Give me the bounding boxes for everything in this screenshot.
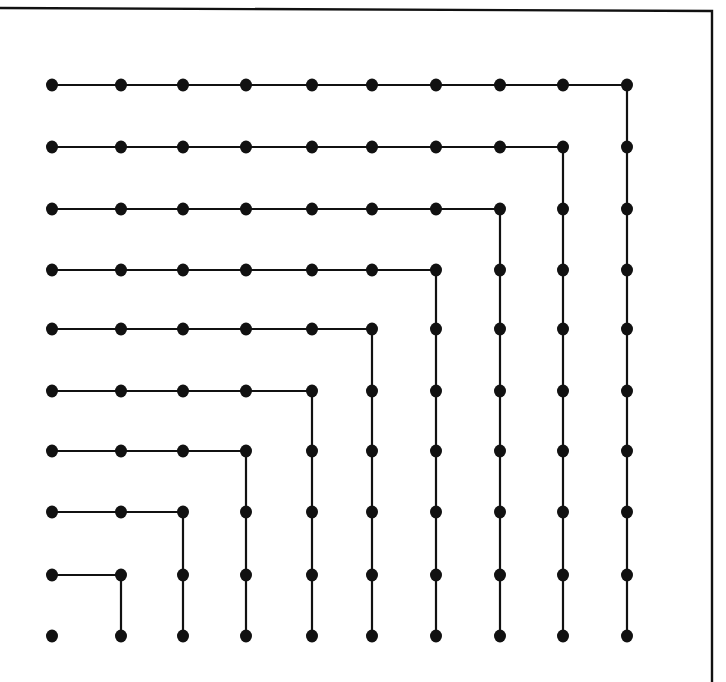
lattice-dot (430, 79, 442, 92)
lattice-dot (430, 141, 442, 154)
lattice-dot (306, 141, 318, 154)
lattice-dot (366, 630, 378, 643)
lattice-dot (494, 506, 506, 519)
lattice-dot (430, 385, 442, 398)
lattice-dot (494, 630, 506, 643)
lattice-dot (557, 323, 569, 336)
lattice-dot (177, 203, 189, 216)
lattice-dot (557, 569, 569, 582)
lattice-dot (240, 323, 252, 336)
lattice-dot (306, 445, 318, 458)
lattice-dot (240, 445, 252, 458)
lattice-dot (366, 569, 378, 582)
lattice-dot (430, 445, 442, 458)
gnomon-lines (52, 85, 627, 636)
lattice-dot (46, 445, 58, 458)
gnomon-path-4 (52, 451, 246, 636)
lattice-dot (494, 323, 506, 336)
lattice-dot (115, 141, 127, 154)
lattice-dot (430, 323, 442, 336)
lattice-dot (494, 385, 506, 398)
lattice-dot (177, 385, 189, 398)
lattice-dot (46, 506, 58, 519)
lattice-dot (306, 264, 318, 277)
lattice-dot (366, 264, 378, 277)
lattice-dot (621, 264, 633, 277)
lattice-dot (177, 323, 189, 336)
lattice-dot (177, 506, 189, 519)
lattice-dot (430, 569, 442, 582)
lattice-dot (306, 385, 318, 398)
lattice-dot (306, 203, 318, 216)
lattice-dot (240, 385, 252, 398)
lattice-dot (240, 569, 252, 582)
lattice-dot (240, 79, 252, 92)
lattice-dot (366, 506, 378, 519)
lattice-dot (240, 141, 252, 154)
lattice-dot (621, 79, 633, 92)
gnomon-dot-diagram (0, 0, 726, 682)
lattice-dot (366, 141, 378, 154)
lattice-dot (177, 630, 189, 643)
lattice-dot (240, 264, 252, 277)
lattice-dot (621, 445, 633, 458)
lattice-dot (46, 569, 58, 582)
lattice-dot (366, 445, 378, 458)
lattice-dot (115, 203, 127, 216)
lattice-dot (177, 79, 189, 92)
lattice-dot (494, 569, 506, 582)
lattice-dot (557, 264, 569, 277)
lattice-dot (366, 79, 378, 92)
lattice-dot (366, 385, 378, 398)
lattice-dot (240, 203, 252, 216)
lattice-dot (366, 323, 378, 336)
lattice-dot (46, 203, 58, 216)
lattice-dot (306, 79, 318, 92)
lattice-dot (621, 323, 633, 336)
lattice-dot (557, 79, 569, 92)
lattice-dot (306, 323, 318, 336)
lattice-dot (115, 323, 127, 336)
lattice-dots (46, 79, 633, 643)
lattice-dot (46, 323, 58, 336)
lattice-dot (494, 79, 506, 92)
lattice-dot (115, 569, 127, 582)
lattice-dot (240, 630, 252, 643)
lattice-dot (430, 203, 442, 216)
lattice-dot (557, 203, 569, 216)
lattice-dot (46, 630, 58, 643)
gnomon-path-2 (52, 575, 121, 636)
lattice-dot (306, 569, 318, 582)
lattice-dot (621, 385, 633, 398)
lattice-dot (115, 445, 127, 458)
lattice-dot (621, 203, 633, 216)
lattice-dot (240, 506, 252, 519)
lattice-dot (621, 630, 633, 643)
frame-line (0, 8, 712, 682)
lattice-dot (621, 141, 633, 154)
lattice-dot (557, 445, 569, 458)
gnomon-path-6 (52, 329, 372, 636)
lattice-dot (366, 203, 378, 216)
lattice-dot (621, 569, 633, 582)
lattice-dot (557, 506, 569, 519)
lattice-dot (557, 630, 569, 643)
frame-border (0, 8, 712, 682)
lattice-dot (46, 385, 58, 398)
lattice-dot (177, 264, 189, 277)
lattice-dot (430, 506, 442, 519)
lattice-dot (115, 79, 127, 92)
lattice-dot (494, 264, 506, 277)
lattice-dot (115, 385, 127, 398)
lattice-dot (115, 506, 127, 519)
lattice-dot (306, 630, 318, 643)
lattice-dot (46, 264, 58, 277)
lattice-dot (430, 630, 442, 643)
lattice-dot (177, 445, 189, 458)
lattice-dot (494, 141, 506, 154)
lattice-dot (115, 630, 127, 643)
lattice-dot (46, 79, 58, 92)
lattice-dot (621, 506, 633, 519)
lattice-dot (494, 203, 506, 216)
lattice-dot (115, 264, 127, 277)
